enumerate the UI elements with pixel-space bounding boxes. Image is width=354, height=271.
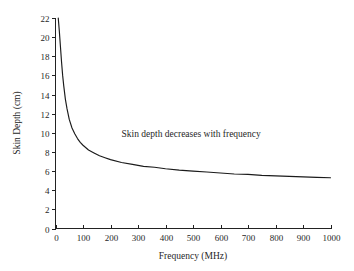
x-tick-label: 800 [270,233,284,243]
y-tick-label: 0 [45,225,50,235]
y-tick-label: 14 [41,91,51,101]
x-tick-label: 400 [160,233,174,243]
y-tick-label: 12 [41,110,50,120]
y-tick-label: 22 [41,14,50,24]
y-tick-label: 4 [45,186,50,196]
x-tick-label: 600 [215,233,229,243]
x-tick-label: 100 [77,233,91,243]
x-axis-title: Frequency (MHz) [159,251,227,262]
x-tick-label: 0 [54,233,59,243]
x-tick-label: 900 [297,233,311,243]
y-tick-label: 10 [41,129,51,139]
x-tick-label: 1000 [323,233,342,243]
y-tick-label: 16 [41,71,51,81]
chart-annotations: Skin depth decreases with frequency [122,129,262,139]
y-tick-label: 20 [41,33,51,43]
skin-depth-line-chart: 0246810121416182022 01002003004005006007… [0,0,354,271]
x-tick-label: 500 [187,233,201,243]
x-tick-label: 300 [132,233,146,243]
y-axis-title: Skin Depth (cm) [12,91,23,154]
y-tick-label: 8 [45,148,50,158]
x-tick-label: 200 [105,233,119,243]
y-tick-label: 18 [41,52,51,62]
x-tick-label: 700 [242,233,256,243]
chart-figure: 0246810121416182022 01002003004005006007… [0,0,354,271]
chart-annotation-label: Skin depth decreases with frequency [122,129,262,139]
y-tick-label: 6 [45,167,50,177]
y-tick-label: 2 [45,205,50,215]
